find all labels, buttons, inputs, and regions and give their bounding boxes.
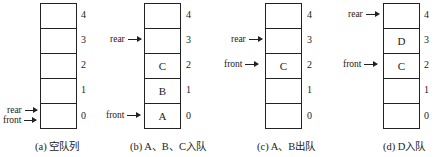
index-label-3: 3 [424,34,434,45]
queue-cell-3 [41,29,76,54]
panel-ab-dequeued: C 4 3 2 1 0 rear front (c) A、B出队 [215,0,325,157]
queue-cell-0 [41,104,76,129]
queue-array: D C [383,3,420,129]
arrow-right-icon [245,64,258,65]
caption: (d) D入队 [383,138,425,153]
rear-pointer: rear [110,34,141,44]
queue-array: C [265,3,302,129]
index-label-4: 4 [186,9,196,20]
index-label-1: 1 [424,84,434,95]
queue-cell-4 [145,4,180,29]
rear-label: rear [110,34,125,44]
arrow-right-icon [364,64,377,65]
panel-d-enqueued: D C 4 3 2 1 0 rear front (d) D入队 [320,0,434,157]
index-label-1: 1 [81,84,91,95]
index-label-3: 3 [307,34,317,45]
front-label: front [343,59,361,69]
queue-cell-3: D [384,29,419,54]
front-pointer: front [106,110,140,120]
queue-cell-3 [145,29,180,54]
index-label-2: 2 [424,59,434,70]
index-label-2: 2 [307,59,317,70]
index-label-2: 2 [186,59,196,70]
caption: (a) 空队列 [35,138,79,153]
rear-pointer: rear [231,34,262,44]
index-label-4: 4 [424,9,434,20]
arrow-right-icon [127,115,140,116]
queue-cell-4 [384,4,419,29]
front-pointer: front [343,59,377,69]
queue-cell-2: C [266,54,301,79]
queue-cell-2: C [145,54,180,79]
index-label-0: 0 [307,110,317,121]
queue-cell-1: B [145,79,180,104]
queue-cell-3 [266,29,301,54]
front-pointer: front [3,115,36,125]
index-label-1: 1 [186,84,196,95]
front-pointer: front [224,59,258,69]
queue-cell-4 [266,4,301,29]
index-label-0: 0 [186,110,196,121]
queue-cell-2 [41,54,76,79]
caption: (c) A、B出队 [257,138,315,153]
queue-array [40,3,77,129]
queue-cell-0 [384,104,419,129]
arrow-right-icon [128,39,141,40]
index-label-2: 2 [81,59,91,70]
index-label-0: 0 [81,110,91,121]
index-label-4: 4 [307,9,317,20]
queue-cell-1 [41,79,76,104]
panel-empty-queue: 4 3 2 1 0 rear front (a) 空队列 [0,0,110,157]
front-label: front [3,115,21,125]
panel-abc-enqueued: C B A 4 3 2 1 0 rear front (b) A、B、C入队 [100,0,220,157]
rear-pointer: rear [7,105,37,115]
rear-label: rear [348,9,363,19]
index-label-1: 1 [307,84,317,95]
rear-label: rear [7,105,22,115]
index-label-0: 0 [424,110,434,121]
rear-pointer: rear [348,9,379,19]
queue-cell-4 [41,4,76,29]
queue-cell-0: A [145,104,180,129]
front-label: front [106,110,124,120]
index-label-3: 3 [81,34,91,45]
caption: (b) A、B、C入队 [130,138,206,153]
arrow-right-icon [24,120,36,121]
front-label: front [224,59,242,69]
arrow-right-icon [249,39,262,40]
queue-array: C B A [144,3,181,129]
rear-label: rear [231,34,246,44]
arrow-right-icon [25,110,37,111]
arrow-right-icon [366,14,379,15]
queue-cell-0 [266,104,301,129]
queue-cell-2: C [384,54,419,79]
index-label-4: 4 [81,9,91,20]
queue-cell-1 [266,79,301,104]
queue-cell-1 [384,79,419,104]
index-label-3: 3 [186,34,196,45]
